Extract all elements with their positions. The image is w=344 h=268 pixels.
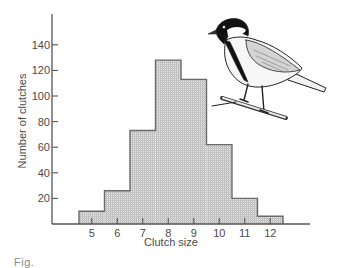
y-tick-label: 20 [38,192,50,204]
x-tick-label: 6 [114,227,120,239]
histogram-bar-8 [156,60,182,224]
great-tit-bird-illustration [208,19,326,118]
y-tick-label: 140 [32,39,50,51]
x-tick-label: 5 [89,227,95,239]
x-tick-label: 12 [264,227,276,239]
y-tick-label: 120 [32,64,50,76]
y-axis-ticks: 20406080100120140 [32,39,58,205]
y-tick-label: 80 [38,116,50,128]
y-axis-label: Number of clutches [16,73,28,168]
x-tick-label: 10 [213,227,225,239]
y-tick-label: 100 [32,90,50,102]
x-tick-label: 11 [239,227,250,239]
y-tick-label: 40 [38,167,50,179]
x-axis-label: Clutch size [144,236,198,248]
y-tick-label: 60 [38,141,50,153]
histogram-bar-7 [130,131,156,224]
histogram-bar-10 [207,145,233,224]
figure-caption-cutoff: Fig. [14,256,34,268]
histogram-bar-9 [181,79,207,224]
